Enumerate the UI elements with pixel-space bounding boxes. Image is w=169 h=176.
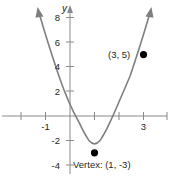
y-tick-label-4: 4 (44, 62, 60, 72)
point-annotation-3-5: (3, 5) (108, 50, 130, 60)
parabola-graph-figure: y 8 6 4 2 -2 -4 -1 3 (3, 5) Vertex: (1, … (0, 0, 169, 176)
y-tick-label-6: 6 (44, 38, 60, 48)
y-tick-label-neg4: -4 (40, 161, 60, 171)
data-point-3-5 (140, 51, 147, 58)
vertex-annotation: Vertex: (1, -3) (73, 160, 131, 170)
y-axis-arrowhead (67, 5, 73, 13)
x-tick-label-neg1: -1 (36, 122, 56, 132)
y-tick-label-neg2: -2 (40, 136, 60, 146)
data-point-vertex (91, 149, 98, 156)
curve-left-arrowhead (36, 7, 44, 18)
y-tick-label-8: 8 (44, 13, 60, 23)
y-axis-label: y (62, 4, 67, 14)
curve-right-arrowhead (146, 7, 154, 18)
plot-canvas (0, 0, 169, 176)
x-tick-label-3: 3 (134, 122, 154, 132)
y-tick-label-2: 2 (44, 87, 60, 97)
